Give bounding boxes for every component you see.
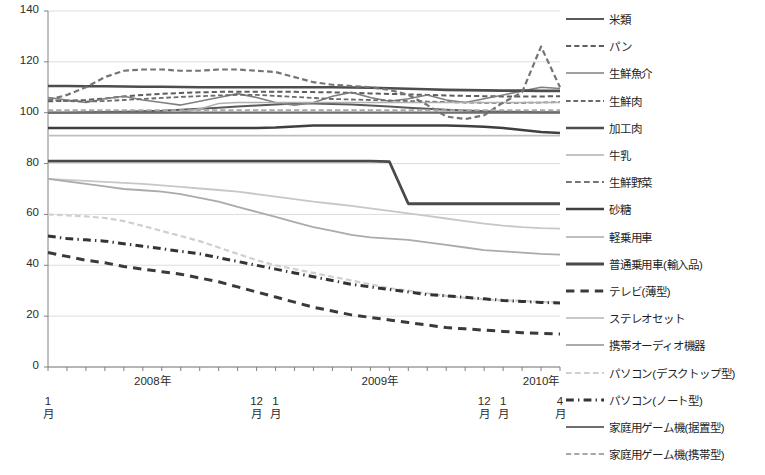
legend-item-label: 加工肉 — [609, 120, 641, 136]
legend-item[interactable]: 生鮮魚介 — [565, 60, 765, 86]
legend-line-sample-icon — [565, 176, 605, 188]
legend-item-label: パソコン(ノート型) — [609, 392, 703, 408]
legend-line-sample-icon — [565, 67, 605, 79]
legend-item[interactable]: 生鮮肉 — [565, 88, 765, 114]
x-axis-year-label: 2009年 — [340, 376, 420, 388]
legend-item-label: 米類 — [609, 11, 631, 27]
y-axis-tick-label: 20 — [0, 309, 39, 321]
x-axis-month-number: 1 — [262, 395, 290, 408]
chart-legend: 米類パン生鮮魚介生鮮肉加工肉牛乳生鮮野菜砂糖軽乗用車普通乗用車(輸入品)テレビ(… — [565, 6, 765, 474]
x-tick-marks — [48, 367, 560, 371]
x-axis-month-number: 1 — [489, 395, 517, 408]
legend-item[interactable]: 生鮮野菜 — [565, 169, 765, 195]
x-axis-month-label: 1月 — [262, 395, 290, 421]
legend-item[interactable]: パソコン(デスクトップ型) — [565, 360, 765, 386]
legend-item[interactable]: テレビ(薄型) — [565, 278, 765, 304]
legend-item-label: 生鮮魚介 — [609, 65, 652, 81]
legend-item-label: 家庭用ゲーム機(携帯型) — [609, 446, 724, 462]
legend-item[interactable]: 米類 — [565, 6, 765, 32]
series-line-4 — [48, 86, 560, 91]
y-axis-tick-label: 40 — [0, 258, 39, 270]
series-group — [48, 47, 560, 334]
legend-line-sample-icon — [565, 258, 605, 270]
series-line-7 — [48, 125, 560, 133]
legend-item-label: 家庭用ゲーム機(据置型) — [609, 419, 724, 435]
y-axis-tick-label: 140 — [0, 4, 39, 16]
legend-line-sample-icon — [565, 448, 605, 460]
legend-item-label: テレビ(薄型) — [609, 283, 670, 299]
y-axis-tick-label: 60 — [0, 207, 39, 219]
x-axis-month-unit: 月 — [34, 408, 62, 421]
y-axis-tick-label: 120 — [0, 55, 39, 67]
legend-item-label: パン — [609, 38, 632, 54]
y-axis-tick-label: 0 — [0, 360, 39, 372]
series-line-13 — [48, 214, 560, 302]
x-axis-month-label: 1月 — [34, 395, 62, 421]
series-line-0 — [48, 104, 560, 113]
legend-line-sample-icon — [565, 394, 605, 406]
legend-item[interactable]: 砂糖 — [565, 196, 765, 222]
legend-line-sample-icon — [565, 95, 605, 107]
chart-page: 0204060801001201402008年2009年2010年1月12月1月… — [0, 0, 765, 475]
legend-item[interactable]: 家庭用ゲーム機(携帯型) — [565, 441, 765, 467]
legend-line-sample-icon — [565, 122, 605, 134]
x-axis-year-label: 2008年 — [112, 376, 192, 388]
legend-item[interactable]: 加工肉 — [565, 115, 765, 141]
x-axis-month-unit: 月 — [489, 408, 517, 421]
legend-item-label: ステレオセット — [609, 310, 685, 326]
legend-line-sample-icon — [565, 339, 605, 351]
legend-item[interactable]: 携帯オーディオ機器 — [565, 332, 765, 358]
legend-line-sample-icon — [565, 312, 605, 324]
legend-item-label: 牛乳 — [609, 147, 631, 163]
legend-item-label: 生鮮野菜 — [609, 174, 652, 190]
legend-item[interactable]: 普通乗用車(輸入品) — [565, 251, 765, 277]
legend-item[interactable]: 牛乳 — [565, 142, 765, 168]
legend-item-label: 携帯オーディオ機器 — [609, 337, 705, 353]
legend-item-label: 砂糖 — [609, 201, 631, 217]
y-axis-tick-label: 100 — [0, 106, 39, 118]
series-line-6 — [48, 47, 560, 119]
x-axis-month-label: 1月 — [489, 395, 517, 421]
legend-line-sample-icon — [565, 421, 605, 433]
legend-item-label: 普通乗用車(輸入品) — [609, 256, 703, 272]
series-line-14 — [48, 236, 560, 303]
x-axis-month-number: 1 — [34, 395, 62, 408]
legend-item[interactable]: パン — [565, 33, 765, 59]
legend-item[interactable]: 家庭用ゲーム機(据置型) — [565, 414, 765, 440]
legend-item-label: パソコン(デスクトップ型) — [609, 365, 735, 381]
chart-plot-area: 0204060801001201402008年2009年2010年1月12月1月… — [0, 0, 575, 475]
legend-item[interactable]: パソコン(ノート型) — [565, 387, 765, 413]
legend-line-sample-icon — [565, 13, 605, 25]
legend-item-label: 軽乗用車 — [609, 229, 652, 245]
legend-line-sample-icon — [565, 203, 605, 215]
legend-item-label: 生鮮肉 — [609, 93, 641, 109]
legend-line-sample-icon — [565, 40, 605, 52]
legend-line-sample-icon — [565, 367, 605, 379]
x-axis-month-unit: 月 — [262, 408, 290, 421]
y-axis-tick-label: 80 — [0, 157, 39, 169]
legend-item[interactable]: ステレオセット — [565, 305, 765, 331]
legend-line-sample-icon — [565, 149, 605, 161]
legend-line-sample-icon — [565, 231, 605, 243]
legend-item[interactable]: 軽乗用車 — [565, 224, 765, 250]
series-line-10 — [48, 253, 560, 334]
legend-line-sample-icon — [565, 285, 605, 297]
